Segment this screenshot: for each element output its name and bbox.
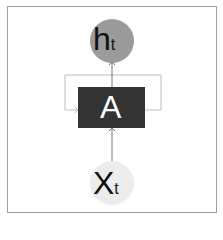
input-label: Xt [93, 165, 119, 207]
output-label: ht [93, 21, 115, 63]
cell-label: A [100, 89, 121, 125]
